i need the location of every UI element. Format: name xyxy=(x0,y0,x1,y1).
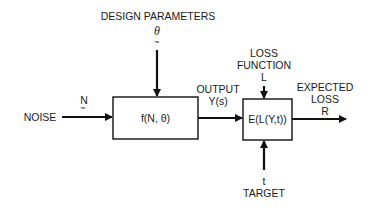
noise-tilde: ~ xyxy=(80,104,85,113)
loss-function-symbol: L xyxy=(258,72,270,83)
theta-symbol: θ xyxy=(150,26,164,37)
noise-label: NOISE xyxy=(20,112,60,123)
expected-loss-symbol: R xyxy=(319,106,331,117)
diagram-lines xyxy=(0,0,373,210)
diagram-canvas: DESIGN PARAMETERS θ ~ NOISE N ~ f(N, θ) … xyxy=(0,0,373,210)
loss-block-label: E(L(Y,t)) xyxy=(243,114,292,125)
target-symbol: t xyxy=(258,176,270,187)
expected-loss-line1: EXPECTED xyxy=(290,82,360,93)
output-label: OUTPUT xyxy=(193,84,243,95)
theta-tilde: ~ xyxy=(154,38,159,47)
expected-loss-line2: LOSS xyxy=(290,94,360,105)
system-block-label: f(N, θ) xyxy=(113,113,198,124)
target-label: TARGET xyxy=(234,188,294,199)
design-parameters-label: DESIGN PARAMETERS xyxy=(88,11,228,22)
loss-function-line2: FUNCTION xyxy=(234,60,294,71)
loss-function-line1: LOSS xyxy=(234,48,294,59)
output-symbol: Y(s) xyxy=(193,96,243,107)
